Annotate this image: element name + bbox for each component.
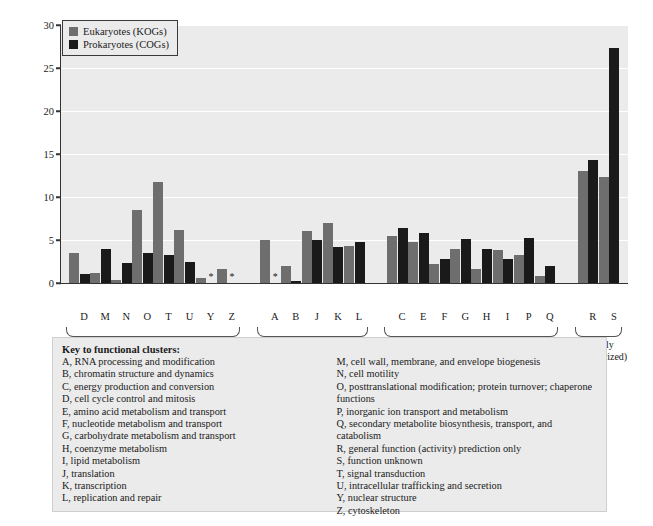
- key-item: O, posttranslational modification; prote…: [337, 381, 598, 406]
- y-axis-tick-mark: [56, 67, 61, 69]
- y-axis-tick-label: 20: [14, 106, 61, 117]
- key-item: D, cell cycle control and mitosis: [62, 393, 323, 405]
- key-item: C, energy production and conversion: [62, 381, 323, 393]
- bar-M-prokaryotes: [101, 249, 111, 283]
- bar-G-prokaryotes: [461, 239, 471, 283]
- bar-Y-eukaryotes: [196, 278, 206, 283]
- bar-T-eukaryotes: [153, 182, 163, 283]
- bar-O-eukaryotes: [132, 210, 142, 283]
- key-item: B, chromatin structure and dynamics: [62, 368, 323, 380]
- bar-E-eukaryotes: [408, 242, 418, 283]
- bar-F-prokaryotes: [440, 259, 450, 283]
- bar-M-eukaryotes: [90, 273, 100, 283]
- y-axis-tick-mark: [56, 153, 61, 155]
- bar-E-prokaryotes: [419, 233, 429, 283]
- y-axis-tick-label: 30: [14, 20, 61, 31]
- bar-I-eukaryotes: [493, 250, 503, 283]
- gridline: [61, 197, 628, 198]
- key-item: R, general function (activity) predictio…: [337, 443, 598, 455]
- bar-R-prokaryotes: [588, 160, 598, 283]
- legend-swatch-icon-eukaryotes: [69, 27, 78, 36]
- legend-swatch-icon-prokaryotes: [69, 40, 78, 49]
- legend-label-eukaryotes: Eukaryotes (KOGs): [83, 25, 167, 38]
- bar-L-eukaryotes: [344, 246, 354, 283]
- key-item: S, function unknown: [337, 455, 598, 467]
- key-item: L, replication and repair: [62, 492, 323, 504]
- bar-P-eukaryotes: [514, 255, 524, 283]
- x-axis-tick-label-S: S: [602, 311, 626, 322]
- gridline: [61, 154, 628, 155]
- key-panel: Key to functional clusters: A, RNA proce…: [52, 337, 607, 512]
- bar-C-eukaryotes: [387, 236, 397, 283]
- bar-T-prokaryotes: [164, 255, 174, 283]
- bar-N-prokaryotes: [122, 263, 132, 283]
- bar-U-eukaryotes: [174, 230, 184, 283]
- key-item: I, lipid metabolism: [62, 455, 323, 467]
- asterisk-annotation-A: *: [270, 272, 280, 282]
- bar-N-eukaryotes: [111, 280, 121, 283]
- bar-F-eukaryotes: [429, 264, 439, 283]
- key-item: G, carbohydrate metabolism and transport: [62, 430, 323, 442]
- key-item: A, RNA processing and modification: [62, 356, 323, 368]
- bar-H-prokaryotes: [482, 249, 492, 283]
- key-item: T, signal transduction: [337, 468, 598, 480]
- bar-I-prokaryotes: [503, 259, 513, 283]
- bar-J-eukaryotes: [302, 231, 312, 283]
- bar-D-eukaryotes: [69, 253, 79, 283]
- asterisk-annotation-Z: *: [227, 272, 237, 282]
- bar-B-eukaryotes: [281, 266, 291, 283]
- key-item: K, transcription: [62, 480, 323, 492]
- key-column-right: M, cell wall, membrane, and envelope bio…: [337, 356, 598, 517]
- bar-G-eukaryotes: [450, 249, 460, 283]
- key-item: H, coenzyme metabolism: [62, 443, 323, 455]
- gridline: [61, 68, 628, 69]
- key-item: M, cell wall, membrane, and envelope bio…: [337, 356, 598, 368]
- bar-P-prokaryotes: [524, 238, 534, 283]
- bar-H-eukaryotes: [471, 269, 481, 283]
- gridline: [61, 111, 628, 112]
- figure-container: 051015202530DMNOTU*Y*Z*ABJKLCEFGHIPQRSCe…: [0, 0, 653, 526]
- plot-area: 051015202530DMNOTU*Y*Z*ABJKLCEFGHIPQRSCe…: [60, 25, 628, 284]
- bar-C-prokaryotes: [398, 228, 408, 283]
- bar-J-prokaryotes: [312, 240, 322, 283]
- bar-Z-eukaryotes: [217, 269, 227, 283]
- x-axis-tick-label-L: L: [347, 311, 371, 322]
- y-axis-tick-label: 15: [14, 149, 61, 160]
- bar-Q-prokaryotes: [545, 266, 555, 283]
- bar-K-prokaryotes: [333, 247, 343, 283]
- bar-D-prokaryotes: [80, 274, 90, 283]
- bar-R-eukaryotes: [578, 171, 588, 283]
- bar-U-prokaryotes: [185, 262, 195, 283]
- y-axis-tick-label: 0: [14, 278, 61, 289]
- bar-S-prokaryotes: [609, 48, 619, 283]
- key-item: F, nucleotide metabolism and transport: [62, 418, 323, 430]
- bar-Q-eukaryotes: [535, 276, 545, 283]
- key-item: Z, cytoskeleton: [337, 505, 598, 517]
- key-item: P, inorganic ion transport and metabolis…: [337, 406, 598, 418]
- key-item: N, cell motility: [337, 368, 598, 380]
- y-axis-tick-mark: [56, 282, 61, 284]
- y-axis-tick-label: 10: [14, 192, 61, 203]
- x-axis-tick-label-Q: Q: [538, 311, 562, 322]
- y-axis-tick-mark: [56, 24, 61, 26]
- key-item: J, translation: [62, 468, 323, 480]
- legend-item-prokaryotes: Prokaryotes (COGs): [69, 38, 169, 51]
- y-axis-tick-label: 5: [14, 235, 61, 246]
- key-item: U, intracellular trafficking and secreti…: [337, 480, 598, 492]
- key-column-left: A, RNA processing and modificationB, chr…: [62, 356, 323, 517]
- x-axis-tick-label-Z: Z: [220, 311, 244, 322]
- chart-legend: Eukaryotes (KOGs) Prokaryotes (COGs): [62, 20, 178, 56]
- asterisk-annotation-Y: *: [206, 272, 216, 282]
- key-item: E, amino acid metabolism and transport: [62, 406, 323, 418]
- legend-item-eukaryotes: Eukaryotes (KOGs): [69, 25, 169, 38]
- bar-B-prokaryotes: [291, 281, 301, 283]
- bar-O-prokaryotes: [143, 253, 153, 283]
- y-axis-tick-mark: [56, 239, 61, 241]
- bar-S-eukaryotes: [599, 177, 609, 283]
- key-item: Y, nuclear structure: [337, 492, 598, 504]
- key-item: Q, secondary metabolite biosynthesis, tr…: [337, 418, 598, 443]
- key-title: Key to functional clusters:: [62, 344, 597, 355]
- bar-L-prokaryotes: [355, 242, 365, 283]
- y-axis-tick-mark: [56, 196, 61, 198]
- legend-label-prokaryotes: Prokaryotes (COGs): [83, 38, 169, 51]
